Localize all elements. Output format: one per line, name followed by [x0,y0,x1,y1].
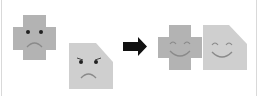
sad-cross-shape [13,15,56,60]
diagram-canvas [0,0,260,96]
diagram-svg [0,0,260,96]
happy-pentagon-shape [203,25,247,70]
right-arrow-icon [123,37,147,56]
happy-cross-shape [158,25,202,70]
sad-pentagon-shape [69,43,113,89]
